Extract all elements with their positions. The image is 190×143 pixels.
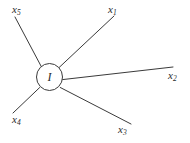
leg-label-x5: x5 (12, 4, 21, 17)
leg-line-x4 (13, 88, 40, 113)
leg-label-subscript-x3: 3 (123, 128, 127, 137)
leg-label-x4: x4 (12, 114, 21, 127)
leg-line-x1 (59, 16, 114, 68)
diagram-canvas (0, 0, 190, 143)
leg-label-subscript-x4: 4 (17, 118, 21, 127)
vertex-diagram-figure: I x1x2x3x4x5 (0, 0, 190, 143)
leg-line-x2 (62, 67, 173, 80)
leg-label-subscript-x5: 5 (17, 8, 21, 17)
leg-label-subscript-x2: 2 (173, 74, 177, 83)
legs-group (13, 16, 173, 124)
leg-line-x5 (15, 17, 41, 66)
leg-label-x1: x1 (108, 4, 117, 17)
leg-label-x3: x3 (118, 124, 127, 137)
leg-line-x3 (60, 88, 131, 125)
vertex-label: I (40, 71, 60, 83)
leg-label-x2: x2 (168, 70, 177, 83)
leg-label-subscript-x1: 1 (113, 8, 117, 17)
